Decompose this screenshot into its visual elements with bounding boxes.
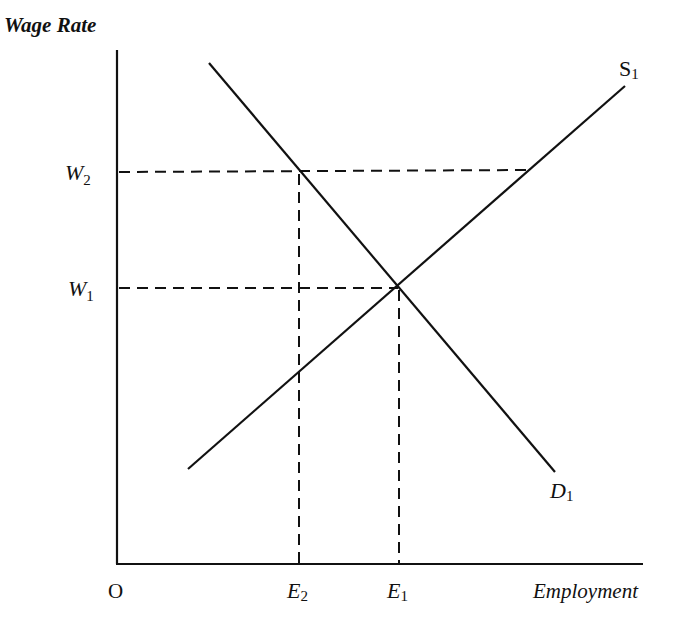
e1-label: E1 xyxy=(386,578,408,604)
origin-label: O xyxy=(108,579,123,603)
d1-label: D1 xyxy=(549,478,573,504)
w2-label: W2 xyxy=(65,160,91,188)
demand-curve-d1 xyxy=(209,63,555,472)
supply-curve-s1 xyxy=(188,86,625,469)
labor-market-diagram: Wage Rate Employment O W2 W1 E2 E1 S1 D1 xyxy=(0,0,690,635)
w2-reference-line xyxy=(119,170,528,172)
s1-label: S1 xyxy=(619,56,639,82)
y-axis-title: Wage Rate xyxy=(4,13,96,37)
x-axis-title: Employment xyxy=(532,579,639,603)
w1-label: W1 xyxy=(68,276,94,304)
e2-label: E2 xyxy=(286,578,308,604)
